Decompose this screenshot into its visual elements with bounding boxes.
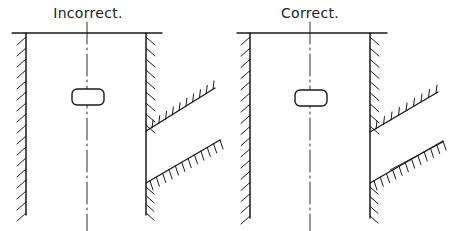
- incorrect-lower-branch-hatch: [150, 181, 153, 190]
- incorrect-lower-branch-hatch: [201, 151, 204, 160]
- correct-right-wall-hatch-upper: [370, 37, 379, 45]
- incorrect-left-wall-hatch: [17, 136, 26, 144]
- correct-right-wall-hatch-lower: [370, 206, 378, 213]
- correct-left-wall-hatch: [241, 149, 250, 157]
- incorrect-left-wall-hatch: [17, 103, 26, 111]
- incorrect-left-wall-hatch: [17, 191, 26, 199]
- incorrect-left-wall-hatch: [17, 213, 26, 221]
- incorrect-right-wall-hatch-upper: [146, 59, 155, 67]
- incorrect-left-wall-hatch: [17, 114, 26, 122]
- correct-left-wall-hatch: [241, 160, 250, 168]
- incorrect-lower-branch-hatch: [163, 174, 166, 183]
- incorrect-upper-branch: [146, 88, 215, 131]
- correct-left-wall-hatch: [241, 171, 250, 179]
- incorrect-left-wall-hatch: [17, 180, 26, 188]
- incorrect-right-wall-hatch-lower: [146, 204, 154, 211]
- correct-right-wall-hatch-upper: [370, 70, 379, 78]
- correct-lower-branch-hatch: [424, 152, 427, 161]
- correct-upper-branch-hatch: [436, 85, 437, 93]
- correct-left-wall-hatch: [241, 127, 250, 135]
- incorrect-left-wall-hatch: [17, 70, 26, 78]
- correct-left-wall-hatch: [241, 104, 250, 112]
- incorrect-left-wall-hatch: [17, 81, 26, 89]
- incorrect-lower-branch: [146, 140, 220, 183]
- correct-lower-branch-hatch: [430, 148, 433, 157]
- correct-left-wall-hatch: [241, 138, 250, 146]
- incorrect-right-wall-hatch-upper: [146, 114, 155, 122]
- incorrect-right-wall-hatch-upper: [146, 70, 155, 78]
- incorrect-lower-branch-hatch: [195, 155, 198, 164]
- correct-lower-branch-hatch: [405, 163, 408, 172]
- correct-left-wall-hatch: [241, 71, 250, 79]
- correct-right-wall-hatch-lower: [370, 216, 378, 223]
- correct-left-wall-hatch: [241, 115, 250, 123]
- correct-left-wall-hatch: [241, 194, 250, 202]
- incorrect-left-wall-hatch: [17, 59, 26, 67]
- correct-lower-branch-hatch: [399, 166, 402, 175]
- correct-lower-branch-hatch: [387, 174, 390, 183]
- correct-left-wall-hatch: [241, 59, 250, 67]
- incorrect-left-wall-hatch: [17, 48, 26, 56]
- incorrect-lower-branch-hatch: [175, 166, 178, 175]
- incorrect-lower-branch-hatch: [182, 162, 185, 171]
- correct-lower-branch-liner: [390, 142, 443, 170]
- incorrect-right-wall-hatch-upper: [146, 81, 155, 89]
- correct-left-wall-hatch: [241, 205, 250, 213]
- incorrect-left-wall-hatch: [17, 37, 26, 45]
- incorrect-lower-branch-hatch: [188, 159, 191, 168]
- incorrect-right-wall-hatch-upper: [146, 103, 155, 111]
- incorrect-right-wall-hatch-lower: [146, 196, 154, 203]
- correct-lower-branch-hatch: [380, 177, 383, 186]
- correct-left-wall-hatch: [241, 82, 250, 90]
- incorrect-right-wall-hatch-upper: [146, 37, 155, 45]
- correct-lower-branch-hatch: [393, 170, 396, 179]
- incorrect-lower-branch-hatch: [207, 147, 210, 156]
- correct-right-wall-hatch-upper: [370, 48, 379, 56]
- correct-lower-branch-hatch: [437, 145, 440, 154]
- correct-right-wall-hatch-upper: [370, 82, 379, 90]
- incorrect-slot: [72, 89, 104, 105]
- correct-left-wall-hatch: [241, 37, 250, 45]
- correct-lower-branch-hatch: [374, 181, 377, 190]
- incorrect-right-wall-hatch-lower: [146, 213, 154, 220]
- incorrect-left-wall-hatch: [17, 147, 26, 155]
- incorrect-right-wall-hatch-upper: [146, 92, 155, 100]
- incorrect-lower-branch-hatch: [169, 170, 172, 179]
- diagram-canvas: [0, 0, 459, 231]
- correct-right-wall-hatch-upper: [370, 104, 379, 112]
- incorrect-left-wall-hatch: [17, 202, 26, 210]
- correct-lower-branch-hatch: [418, 156, 421, 165]
- incorrect-lower-branch-hatch: [156, 177, 159, 186]
- incorrect-lower-branch-hatch: [220, 140, 223, 149]
- correct-lower-branch-hatch: [412, 159, 415, 168]
- correct-slot: [295, 90, 327, 106]
- correct-right-wall-hatch-lower: [370, 197, 378, 204]
- incorrect-left-wall-hatch: [17, 92, 26, 100]
- correct-upper-branch: [370, 92, 438, 132]
- correct-lower-branch-hatch: [443, 141, 446, 150]
- correct-right-wall-hatch-upper: [370, 115, 379, 123]
- incorrect-left-wall-hatch: [17, 125, 26, 133]
- incorrect-right-wall-hatch-upper: [146, 48, 155, 56]
- incorrect-lower-branch-hatch: [214, 144, 217, 153]
- correct-left-wall-hatch: [241, 93, 250, 101]
- correct-left-wall-hatch: [241, 48, 250, 56]
- correct-right-wall-hatch-upper: [370, 59, 379, 67]
- correct-left-wall-hatch: [241, 182, 250, 190]
- correct-right-wall-hatch-upper: [370, 93, 379, 101]
- correct-left-wall-hatch: [241, 216, 250, 224]
- incorrect-left-wall-hatch: [17, 158, 26, 166]
- incorrect-upper-branch-hatch: [213, 81, 214, 89]
- incorrect-left-wall-hatch: [17, 169, 26, 177]
